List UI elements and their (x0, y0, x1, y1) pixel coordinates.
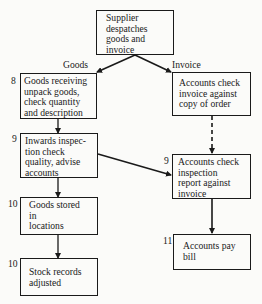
edge-label-invoice: Invoice (172, 60, 201, 70)
step-number: 9 (12, 134, 17, 144)
step-number: 10 (8, 199, 18, 209)
edge-label-goods: Goods (63, 60, 88, 70)
node-supplier-despatches: Supplier despatches goods and invoice (96, 10, 174, 55)
step-number: 9 (164, 156, 169, 166)
node-goods-stored: Goods stored in locations (20, 197, 98, 235)
step-number: 11 (163, 236, 172, 246)
node-accounts-check-invoice: Accounts check invoice against copy of o… (172, 72, 251, 116)
node-goods-receiving: Goods receiving unpack goods, check quan… (20, 73, 97, 119)
step-number: 8 (11, 76, 16, 86)
arrow-goods (97, 55, 135, 72)
step-number: 10 (8, 259, 18, 269)
node-inwards-inspection: Inwards inspec- tion check quality, advi… (20, 133, 98, 178)
node-accounts-pay: Accounts pay bill (173, 234, 251, 270)
node-accounts-check-inspection: Accounts check inspection report against… (172, 154, 251, 199)
arrow-inspection-to-accounts (98, 154, 171, 175)
arrow-invoice (135, 55, 171, 72)
node-stock-records: Stock records adjusted (20, 258, 98, 296)
